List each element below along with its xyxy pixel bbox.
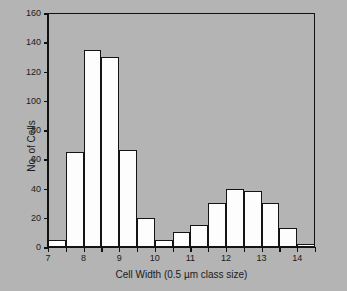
histogram-bar	[244, 191, 262, 247]
x-axis-tick	[190, 247, 191, 252]
x-axis-tick	[208, 247, 209, 252]
x-axis-tick	[315, 247, 316, 252]
histogram-bar	[208, 203, 226, 247]
x-axis-tick-label: 10	[150, 254, 160, 263]
x-axis-tick-label: 14	[292, 254, 302, 263]
histogram-bars	[48, 13, 315, 247]
x-axis-tick-label: 7	[45, 254, 50, 263]
x-axis-tick	[244, 247, 245, 252]
y-axis-tick-label: 160	[26, 9, 41, 18]
y-axis-tick-label: 40	[31, 184, 41, 193]
x-axis-ticks: 7891011121314	[48, 247, 315, 269]
histogram-bar	[279, 228, 297, 247]
y-axis-tick	[44, 159, 48, 161]
x-axis-tick	[66, 247, 67, 252]
x-axis-tick	[119, 247, 120, 252]
y-axis-tick	[44, 189, 48, 191]
y-axis-tick-label: 0	[36, 243, 41, 252]
y-axis-tick	[44, 42, 48, 44]
y-axis-title: No. of Cells	[26, 120, 37, 172]
x-axis-tick	[297, 247, 298, 252]
chart-screenshot: 020406080100120140160 No. of Cells 78910…	[0, 0, 347, 291]
x-axis-tick	[101, 247, 102, 252]
x-axis-tick	[48, 247, 49, 252]
x-axis-tick-label: 11	[186, 254, 195, 263]
x-axis-title: Cell Width (0.5 µm class size)	[48, 269, 315, 280]
x-axis-tick	[173, 247, 174, 252]
histogram-bar	[262, 203, 280, 247]
x-axis-tick	[155, 247, 156, 252]
x-axis-tick	[226, 247, 227, 252]
y-axis-tick	[44, 218, 48, 220]
y-axis-tick	[44, 72, 48, 74]
histogram-bar	[66, 152, 84, 247]
y-axis-tick-label: 140	[26, 38, 41, 47]
histogram-bar	[190, 225, 208, 247]
x-axis-tick-label: 9	[117, 254, 122, 263]
y-axis-tick	[44, 101, 48, 103]
y-axis-tick-label: 20	[31, 213, 41, 222]
y-axis-tick-label: 100	[26, 96, 41, 105]
histogram-bar	[119, 150, 137, 247]
y-axis-ticks: 020406080100120140160	[0, 13, 48, 247]
y-axis-tick	[44, 13, 48, 15]
y-axis-tick	[44, 130, 48, 132]
histogram-bar	[226, 189, 244, 248]
histogram-bar	[101, 57, 119, 247]
x-axis-tick	[137, 247, 138, 252]
x-axis-tick-label: 13	[257, 254, 267, 263]
x-axis-tick	[279, 247, 280, 252]
x-axis-tick	[84, 247, 85, 252]
x-axis-tick	[262, 247, 263, 252]
histogram-bar	[173, 232, 191, 247]
histogram-bar	[84, 50, 102, 247]
x-axis-tick-label: 8	[81, 254, 86, 263]
y-axis-tick-label: 120	[26, 67, 41, 76]
x-axis-tick-label: 12	[221, 254, 231, 263]
histogram-bar	[137, 218, 155, 247]
